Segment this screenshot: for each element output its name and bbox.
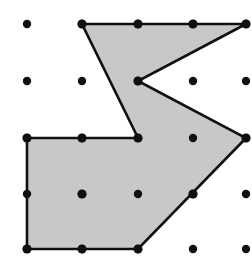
polygon-vertex-dot	[22, 133, 31, 142]
polygon-edge-dot	[77, 133, 86, 142]
lattice-dot	[189, 134, 197, 142]
polygon-vertex-dot	[22, 244, 31, 253]
geoboard-figure: Geoboard polygon on 5 by 5 dot lattice	[0, 0, 252, 258]
lattice-dot	[134, 190, 142, 198]
polygon-edge-dot	[77, 244, 86, 253]
lattice-dot	[78, 77, 86, 85]
lattice-dot	[23, 77, 31, 85]
polygon-edge-dot	[188, 19, 197, 28]
polygon-vertex-dot	[133, 244, 142, 253]
polygon-vertex-dot	[77, 19, 86, 28]
polygon-edge-dot	[133, 19, 142, 28]
lattice-dot	[23, 190, 31, 198]
lattice-dot	[23, 20, 31, 28]
polygon-edge-dot	[188, 189, 197, 198]
lattice-dot	[242, 190, 250, 198]
lattice-dot	[242, 77, 250, 85]
lattice-dot	[189, 245, 197, 253]
lattice-dot	[242, 245, 250, 253]
polygon-vertex-dot	[241, 133, 250, 142]
figure-canvas: Geoboard polygon on 5 by 5 dot lattice	[0, 0, 252, 258]
polygon-edge-dot	[77, 189, 86, 198]
polygon-vertex-dot	[133, 76, 142, 85]
polygon-vertex-dot	[241, 19, 250, 28]
lattice-dot	[189, 77, 197, 85]
polygon-vertex-dot	[133, 133, 142, 142]
